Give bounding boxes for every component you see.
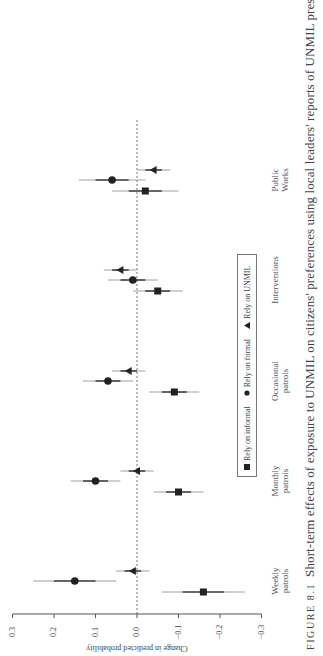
point-square <box>162 589 245 596</box>
tick-label: −0.3 <box>257 620 266 644</box>
tick-label: −0.2 <box>215 620 224 644</box>
category-label: Occasionalpatrols <box>270 351 290 411</box>
circle-marker-icon <box>244 390 250 396</box>
category-label: Monthlypatrols <box>270 451 290 511</box>
legend-item-unmil: Rely on UNMIL <box>243 266 252 329</box>
legend-label: Rely on formal <box>243 339 252 387</box>
legend-label: Rely on UNMIL <box>243 266 252 319</box>
point-square <box>154 489 204 496</box>
tick-label: 0.3 <box>8 620 17 644</box>
figure-number: FIGURE 8.1 <box>305 583 316 650</box>
legend-label: Rely on informal <box>243 406 252 461</box>
point-circle <box>71 477 121 485</box>
legend-item-formal: Rely on formal <box>243 339 252 396</box>
data-points <box>33 166 245 596</box>
caption-text: Short-term effects of exposure to UNMIL … <box>302 0 317 577</box>
square-marker-icon <box>244 464 250 470</box>
point-circle <box>108 276 158 284</box>
tick-label: 0.2 <box>49 620 58 644</box>
category-label: Weeklypatrols <box>270 551 290 611</box>
point-triangle <box>112 367 145 375</box>
point-square <box>112 188 178 195</box>
axis-title: Change in predicted probability <box>62 644 212 653</box>
triangle-marker-icon <box>244 322 250 329</box>
point-triangle <box>104 266 137 274</box>
tick-label: −0.1 <box>174 620 183 644</box>
point-circle <box>33 577 116 585</box>
category-label: Interventions <box>270 250 280 310</box>
legend: Rely on informal Rely on formal Rely on … <box>237 254 257 477</box>
point-square <box>133 288 183 295</box>
point-triangle <box>137 166 170 174</box>
point-circle <box>83 377 133 385</box>
value-axis <box>13 614 262 618</box>
legend-item-informal: Rely on informal <box>243 406 252 470</box>
point-circle <box>79 176 145 184</box>
category-label: PublicWorks <box>270 150 290 210</box>
point-square <box>149 389 199 396</box>
point-triangle <box>116 567 149 575</box>
figure-caption: FIGURE 8.1Short-term effects of exposure… <box>302 0 318 650</box>
tick-label: 0.1 <box>91 620 100 644</box>
tick-label: 0.0 <box>132 620 141 644</box>
